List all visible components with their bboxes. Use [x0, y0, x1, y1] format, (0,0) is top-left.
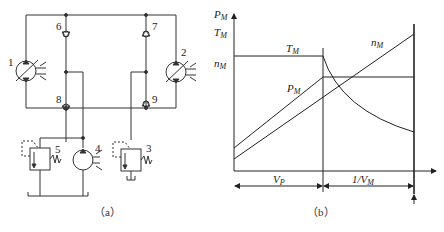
region-label-vp: VP: [273, 173, 285, 187]
y-label-t: TM: [214, 26, 228, 40]
label-2: 2: [181, 46, 187, 58]
region-label-inv-vm: 1/VM: [352, 173, 375, 187]
pm-curve: [234, 77, 414, 148]
pump-motor-1-icon: [16, 60, 46, 82]
curve-label-pm: PM: [286, 82, 302, 96]
curve-label-nm: nM: [371, 36, 385, 50]
label-3: 3: [146, 142, 152, 154]
hydraulic-circuit: [26, 14, 176, 149]
label-6: 6: [56, 20, 62, 32]
tm-hyperbola: [323, 56, 414, 132]
check-valve-6: [62, 31, 70, 37]
pump-motor-2-icon: [166, 61, 196, 83]
label-8: 8: [56, 93, 62, 105]
y-label-n: nM: [214, 57, 228, 71]
caption-b: （b）: [307, 206, 335, 218]
nm-curve: [234, 34, 414, 159]
y-label-p: PM: [213, 8, 229, 22]
label-7: 7: [152, 20, 158, 32]
label-1: 1: [8, 56, 14, 68]
label-4: 4: [95, 142, 101, 154]
curve-label-tm: TM: [286, 42, 300, 56]
caption-a: （a）: [94, 206, 121, 218]
figure-canvas: 1 2 3 4 5 6 7 8 9 （a） PM TM nM TM PM nM …: [0, 0, 444, 232]
pump-4-icon: [73, 149, 102, 196]
label-5: 5: [55, 143, 61, 155]
label-9: 9: [152, 93, 158, 105]
check-valve-7: [142, 31, 150, 37]
characteristic-chart: [234, 14, 436, 204]
